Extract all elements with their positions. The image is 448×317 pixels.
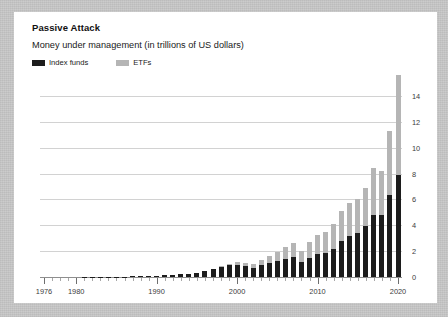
bar-stack-1992 [170, 275, 175, 277]
bar-segment-etfs [387, 131, 392, 196]
bar-stack-2014 [347, 203, 352, 277]
gridline-y-6 [40, 199, 402, 200]
bar-stack-1995 [194, 273, 199, 278]
x-axis-tick [149, 278, 150, 281]
bar-stack-2007 [291, 243, 296, 277]
bar-segment-index-funds [243, 266, 248, 277]
bar-stack-1986 [122, 277, 127, 278]
bar-segment-index-funds [219, 267, 224, 277]
bar-segment-index-funds [315, 254, 320, 277]
bar-stack-2015 [355, 199, 360, 277]
bar-segment-index-funds [291, 257, 296, 277]
bar-segment-etfs [267, 256, 272, 264]
bar-segment-index-funds [122, 277, 127, 278]
bar-stack-2010 [315, 235, 320, 277]
x-axis-tick [366, 278, 367, 281]
x-axis-tick [398, 278, 399, 284]
x-axis-tick [205, 278, 206, 281]
bar-segment-index-funds [235, 265, 240, 277]
bar-segment-index-funds [275, 261, 280, 277]
chart-plot-area: 02468101214197619801990200020102020 [14, 12, 437, 303]
bar-segment-index-funds [307, 258, 312, 277]
bar-stack-2013 [339, 211, 344, 277]
x-axis-tick [261, 278, 262, 281]
bar-segment-index-funds [186, 274, 191, 277]
x-axis-tick [318, 278, 319, 284]
bar-stack-2020 [396, 75, 401, 277]
bar-segment-etfs [291, 243, 296, 257]
y-axis-tick-label: 14 [412, 91, 420, 100]
x-axis-tick [133, 278, 134, 281]
bar-stack-2008 [299, 251, 304, 277]
bar-stack-2018 [379, 171, 384, 277]
gridline-y-12 [40, 122, 402, 123]
x-axis-tick [269, 278, 270, 281]
y-axis-tick-label: 10 [412, 143, 420, 152]
bar-segment-index-funds [323, 253, 328, 277]
bar-segment-index-funds [138, 276, 143, 277]
bar-stack-1990 [154, 276, 159, 277]
bar-stack-2005 [275, 252, 280, 277]
bar-stack-2016 [363, 188, 368, 277]
bar-stack-1987 [130, 276, 135, 277]
x-axis-tick [108, 278, 109, 281]
x-axis-tick-label: 2000 [229, 287, 245, 296]
bar-stack-2006 [283, 247, 288, 277]
gridline-y-10 [40, 148, 402, 149]
bar-segment-index-funds [379, 215, 384, 277]
gridline-y-8 [40, 174, 402, 175]
bar-segment-index-funds [202, 271, 207, 277]
bar-segment-index-funds [194, 273, 199, 277]
bar-segment-etfs [315, 235, 320, 254]
x-axis-tick [181, 278, 182, 281]
x-axis-tick [173, 278, 174, 281]
x-axis-tick [350, 278, 351, 281]
bar-segment-etfs [331, 224, 336, 249]
bar-segment-etfs [299, 251, 304, 262]
bar-stack-2017 [371, 168, 376, 277]
bar-segment-etfs [347, 203, 352, 235]
x-axis-tick [253, 278, 254, 281]
x-axis-tick [92, 278, 93, 281]
bar-segment-index-funds [283, 259, 288, 277]
bar-segment-index-funds [211, 269, 216, 277]
x-axis-tick [60, 278, 61, 281]
bar-segment-etfs [323, 232, 328, 253]
y-axis-tick-label: 0 [412, 273, 416, 282]
x-axis-tick [76, 278, 77, 284]
bar-stack-1996 [202, 271, 207, 277]
bar-stack-1994 [186, 274, 191, 277]
bar-segment-index-funds [339, 241, 344, 277]
bar-segment-etfs [283, 247, 288, 259]
x-axis-tick [84, 278, 85, 281]
bar-segment-etfs [339, 211, 344, 241]
x-axis-tick [100, 278, 101, 281]
x-axis-tick [189, 278, 190, 281]
bar-segment-etfs [355, 199, 360, 233]
x-axis-tick [44, 278, 45, 284]
y-axis-tick-label: 6 [412, 195, 416, 204]
x-axis-tick [310, 278, 311, 281]
bar-segment-index-funds [162, 275, 167, 277]
bar-segment-index-funds [371, 215, 376, 277]
x-axis-tick-label: 1990 [148, 287, 164, 296]
bar-segment-index-funds [178, 274, 183, 277]
bar-segment-index-funds [170, 275, 175, 277]
x-axis-tick [229, 278, 230, 281]
x-axis-tick [221, 278, 222, 281]
y-axis-tick-label: 2 [412, 247, 416, 256]
bar-stack-2011 [323, 232, 328, 277]
bar-stack-2002 [251, 264, 256, 277]
bar-segment-etfs [307, 242, 312, 258]
bar-stack-1999 [227, 264, 232, 277]
x-axis-tick [197, 278, 198, 281]
bar-stack-2019 [387, 131, 392, 277]
bar-segment-index-funds [130, 276, 135, 277]
bar-stack-2000 [235, 262, 240, 277]
bar-segment-index-funds [259, 265, 264, 277]
x-axis-tick [334, 278, 335, 281]
x-axis-tick [382, 278, 383, 281]
x-axis-tick [116, 278, 117, 281]
bar-stack-2009 [307, 242, 312, 277]
bar-stack-1988 [138, 276, 143, 277]
